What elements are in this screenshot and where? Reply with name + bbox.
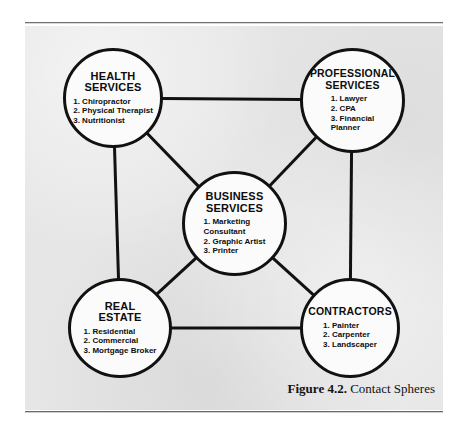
node-health-services[interactable]: HEALTH SERVICES 1. Chiropractor 2. Physi… xyxy=(63,48,163,148)
node-business-services-list: 1. Marketing Consultant 2. Graphic Artis… xyxy=(204,217,266,255)
figure-bottom-rule xyxy=(25,411,443,413)
list-item: 1. Marketing Consultant xyxy=(204,217,266,236)
node-contractors-title: CONTRACTORS xyxy=(308,306,392,318)
figure-page: HEALTH SERVICES 1. Chiropractor 2. Physi… xyxy=(0,0,467,433)
node-contractors[interactable]: CONTRACTORS 1. Painter 2. Carpenter 3. L… xyxy=(300,278,400,378)
node-health-services-title: HEALTH SERVICES xyxy=(84,71,141,94)
list-item: 2. Commercial xyxy=(84,336,157,346)
list-item: 1. Chiropractor xyxy=(73,97,153,107)
node-professional-services-list: 1. Lawyer 2. CPA 3. Financial Planner xyxy=(331,94,375,132)
node-real-estate-list: 1. Residential 2. Commercial 3. Mortgage… xyxy=(84,327,157,356)
node-professional-services-title: PROFESSIONAL SERVICES xyxy=(310,68,395,91)
node-professional-services[interactable]: PROFESSIONAL SERVICES 1. Lawyer 2. CPA 3… xyxy=(300,48,405,153)
edge-health-to-professional xyxy=(162,98,301,99)
node-health-services-list: 1. Chiropractor 2. Physical Therapist 3.… xyxy=(73,97,153,126)
list-item: 1. Lawyer xyxy=(331,94,375,104)
list-item: 3. Nutritionist xyxy=(73,116,153,126)
list-item: 1. Painter xyxy=(323,321,377,331)
edge-realestate-to-business xyxy=(156,258,196,295)
list-item: 3. Financial Planner xyxy=(331,114,375,133)
edge-professional-to-business xyxy=(269,137,316,186)
list-item: 2. CPA xyxy=(331,104,375,114)
edge-contractors-to-business xyxy=(272,257,314,295)
list-item: 3. Mortgage Broker xyxy=(84,346,157,356)
list-item: 1. Residential xyxy=(84,327,157,337)
node-business-services[interactable]: BUSINESS SERVICES 1. Marketing Consultan… xyxy=(182,171,287,276)
figure-caption-title: Contact Spheres xyxy=(350,381,435,396)
list-item: 3. Landscaper xyxy=(323,340,377,350)
node-real-estate[interactable]: REAL ESTATE 1. Residential 2. Commercial… xyxy=(68,278,172,378)
edge-health-to-business xyxy=(147,133,198,186)
list-item: 2. Carpenter xyxy=(323,330,377,340)
edge-professional-to-contractors xyxy=(350,151,351,279)
list-item: 2. Physical Therapist xyxy=(73,106,153,116)
node-real-estate-title: REAL ESTATE xyxy=(99,301,142,324)
list-item: 3. Printer xyxy=(204,246,266,256)
list-item: 2. Graphic Artist xyxy=(204,237,266,247)
edge-health-to-realestate xyxy=(114,147,118,279)
node-business-services-title: BUSINESS SERVICES xyxy=(206,191,264,214)
figure-caption: Figure 4.2. Contact Spheres xyxy=(288,381,435,397)
figure-caption-label: Figure 4.2. xyxy=(288,381,347,396)
node-contractors-list: 1. Painter 2. Carpenter 3. Landscaper xyxy=(323,321,377,350)
